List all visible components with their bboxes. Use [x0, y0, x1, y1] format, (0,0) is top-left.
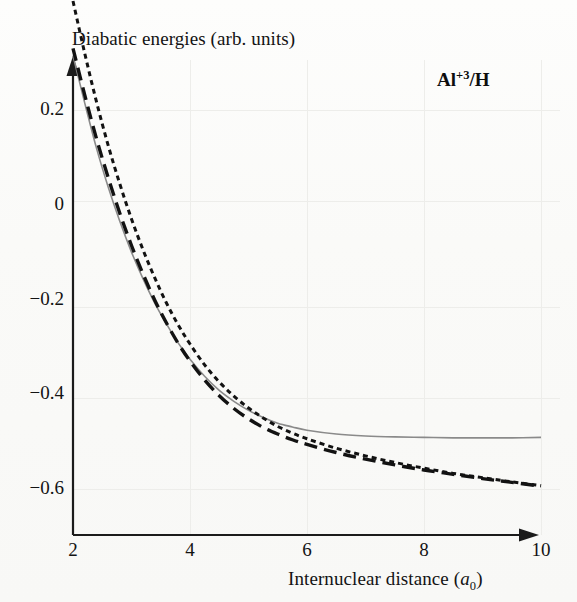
y-tick-label: 0: [0, 193, 64, 215]
y-tick-label: −0.2: [0, 288, 64, 310]
grid-lines: [73, 60, 560, 535]
x-axis-title-symbol: a: [460, 568, 470, 589]
chart-figure: Diabatic energies (arb. units) Internucl…: [0, 0, 577, 602]
y-axis: [67, 56, 80, 535]
y-tick-label: 0.2: [0, 98, 64, 120]
y-tick-label: −0.6: [0, 477, 64, 499]
x-axis-title: Internuclear distance (a0): [288, 568, 483, 594]
x-tick-label: 10: [511, 539, 571, 561]
series-annotation-label: Al+3/H: [437, 68, 489, 91]
annotation-partner: /H: [469, 69, 489, 90]
x-axis-title-suffix: ): [476, 568, 482, 589]
y-axis-title: Diabatic energies (arb. units): [72, 28, 295, 50]
y-tick-label: −0.4: [0, 382, 64, 404]
annotation-element: Al: [437, 69, 456, 90]
plot-canvas: [0, 0, 577, 602]
x-axis-title-prefix: Internuclear distance (: [288, 568, 460, 589]
x-tick-label: 6: [277, 539, 337, 561]
annotation-charge: +3: [456, 68, 469, 82]
x-tick-label: 2: [43, 539, 103, 561]
x-tick-label: 4: [160, 539, 220, 561]
x-tick-label: 8: [394, 539, 454, 561]
